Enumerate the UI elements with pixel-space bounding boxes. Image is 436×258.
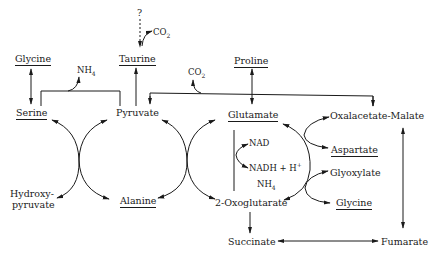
nad-label: NAD: [249, 138, 269, 149]
co2-top-label: CO2: [153, 27, 170, 38]
pathway-arrows: [0, 0, 436, 258]
serine-label: Serine: [16, 107, 47, 120]
fumarate-label: Fumarate: [381, 236, 428, 247]
pyruvate-label: Pyruvate: [116, 107, 159, 118]
glutamate-label: Glutamate: [228, 109, 278, 122]
oxoglutarate-label: 2-Oxoglutarate: [215, 197, 287, 208]
aspartate-label: Aspartate: [331, 144, 378, 157]
oxalacetate-malate-label: Oxalacetate-Malate: [330, 110, 424, 121]
hydroxypyruvate-label-line1: Hydroxy-: [10, 188, 54, 199]
glycine-left-label: Glycine: [15, 53, 51, 66]
glycine-right-label: Glycine: [336, 197, 372, 210]
proline-label: Proline: [234, 55, 268, 68]
nadh-label: NADH + H+: [249, 163, 302, 174]
co2-top-sub: 2: [166, 32, 170, 39]
nh4-mid-sub: 4: [272, 184, 276, 191]
hydroxypyruvate-label-line2: pyruvate: [12, 199, 55, 210]
nh4-top-sub: 4: [92, 70, 96, 77]
succinate-label: Succinate: [228, 236, 276, 247]
co2-mid-label: CO2: [188, 67, 205, 78]
co2-mid-sub: 2: [201, 72, 205, 79]
nh4-mid-label: NH4: [257, 179, 276, 190]
nadh-text: NADH + H: [249, 163, 297, 173]
co2-top-text: CO: [153, 27, 166, 37]
nadh-sup: +: [297, 161, 302, 168]
nh4-mid-text: NH: [257, 179, 272, 189]
taurine-label: Taurine: [119, 53, 156, 66]
nh4-top-label: NH4: [77, 65, 96, 76]
glyoxylate-label: Glyoxylate: [330, 167, 381, 178]
alanine-label: Alanine: [120, 195, 156, 208]
unknown-precursor-label: ?: [137, 7, 142, 18]
co2-mid-text: CO: [188, 67, 201, 77]
nh4-top-text: NH: [77, 65, 92, 75]
